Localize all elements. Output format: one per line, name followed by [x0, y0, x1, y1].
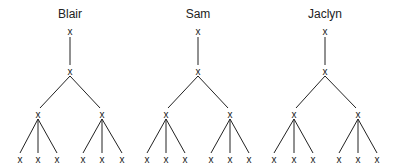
second-node: x	[323, 66, 328, 77]
edge	[40, 76, 70, 108]
branch-node: x	[164, 109, 169, 120]
edge	[20, 119, 38, 153]
root-node: x	[196, 26, 201, 37]
tree-diagram: BlairxxxxxxxxxxSamxxxxxxxxxxJaclynxxxxxx…	[0, 0, 396, 167]
leaf-node: x	[36, 154, 41, 165]
edge	[274, 119, 294, 153]
leaf-node: x	[337, 154, 342, 165]
branch-node: x	[100, 109, 105, 120]
second-node: x	[68, 66, 73, 77]
edge	[168, 76, 198, 108]
root-node: x	[68, 26, 73, 37]
tree-label: Blair	[58, 7, 82, 21]
edge	[296, 76, 325, 108]
tree-blair: Blairxxxxxxxxxx	[18, 7, 125, 165]
leaf-node: x	[183, 154, 188, 165]
tree-jaclyn: Jaclynxxxxxxxxxx	[272, 7, 380, 165]
leaf-node: x	[81, 154, 86, 165]
edge	[325, 76, 356, 108]
second-node: x	[196, 66, 201, 77]
leaf-node: x	[120, 154, 125, 165]
leaf-node: x	[272, 154, 277, 165]
leaf-node: x	[247, 154, 252, 165]
leaf-node: x	[18, 154, 23, 165]
leaf-node: x	[311, 154, 316, 165]
edge	[38, 119, 57, 153]
edge	[294, 119, 313, 153]
leaf-node: x	[164, 154, 169, 165]
edge	[211, 119, 230, 153]
edge	[83, 119, 102, 153]
edge	[339, 119, 358, 153]
leaf-node: x	[145, 154, 150, 165]
branch-node: x	[356, 109, 361, 120]
edge	[358, 119, 377, 153]
edge	[230, 119, 249, 153]
branch-node: x	[36, 109, 41, 120]
leaf-node: x	[356, 154, 361, 165]
edge	[102, 119, 122, 153]
tree-label: Sam	[186, 7, 211, 21]
leaf-node: x	[209, 154, 214, 165]
edge	[147, 119, 166, 153]
leaf-node: x	[100, 154, 105, 165]
tree-label: Jaclyn	[308, 7, 342, 21]
edge	[70, 76, 100, 108]
branch-node: x	[228, 109, 233, 120]
branch-node: x	[292, 109, 297, 120]
leaf-node: x	[375, 154, 380, 165]
edge	[198, 76, 228, 108]
edge	[166, 119, 185, 153]
tree-sam: Samxxxxxxxxxx	[145, 7, 252, 165]
root-node: x	[323, 26, 328, 37]
leaf-node: x	[292, 154, 297, 165]
leaf-node: x	[55, 154, 60, 165]
leaf-node: x	[228, 154, 233, 165]
